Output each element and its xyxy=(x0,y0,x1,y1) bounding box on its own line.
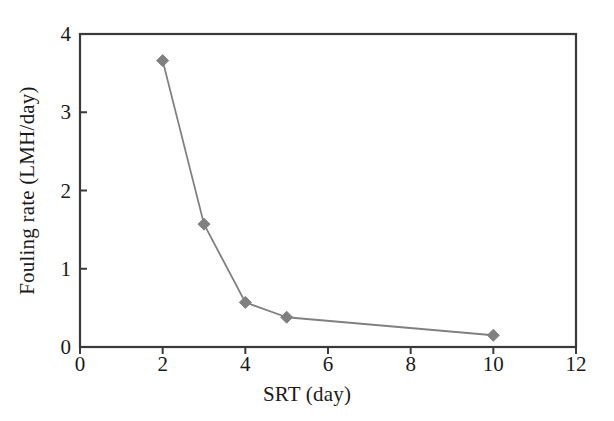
y-tick-label: 1 xyxy=(61,256,72,281)
chart-figure: 024681012 01234 SRT (day) Fouling rate (… xyxy=(0,0,614,421)
plot-canvas xyxy=(0,0,614,421)
y-tick-label: 0 xyxy=(61,335,72,360)
x-tick-label: 8 xyxy=(405,352,416,377)
plot-border xyxy=(80,34,576,347)
x-axis-title: SRT (day) xyxy=(0,382,614,407)
data-point-marker xyxy=(157,55,169,67)
data-line-fouling-rate xyxy=(163,61,494,336)
y-axis-title: Fouling rate (LMH/day) xyxy=(14,34,40,347)
x-tick-label: 12 xyxy=(566,352,587,377)
x-tick-label: 0 xyxy=(75,352,86,377)
data-point-marker xyxy=(198,218,210,230)
y-tick-label: 2 xyxy=(61,178,72,203)
series-polyline xyxy=(163,61,494,336)
data-point-marker xyxy=(239,296,251,308)
y-tick-label: 3 xyxy=(61,100,72,125)
data-markers-fouling-rate xyxy=(157,55,500,342)
data-point-marker xyxy=(487,329,499,341)
y-tick-label: 4 xyxy=(61,22,72,47)
x-tick-label: 10 xyxy=(483,352,504,377)
x-tick-label: 4 xyxy=(240,352,251,377)
data-point-marker xyxy=(281,311,293,323)
x-tick-label: 6 xyxy=(323,352,334,377)
x-tick-label: 2 xyxy=(157,352,168,377)
plot-frame xyxy=(80,34,576,347)
